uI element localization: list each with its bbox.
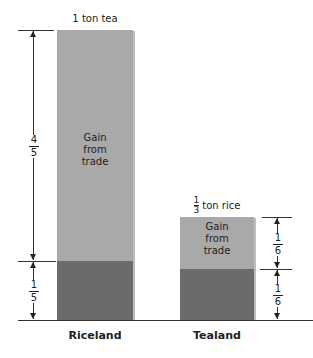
fraction-denominator: 6 xyxy=(273,245,283,256)
tealand-top-label: 1 3 ton rice xyxy=(180,196,254,215)
tealand-label: Tealand xyxy=(180,329,254,342)
arrow-up-icon xyxy=(274,270,280,276)
arrow-up-icon xyxy=(274,218,280,224)
tealand-top-fraction: 1 3 xyxy=(194,196,200,215)
riceland-base-fraction: 1 5 xyxy=(29,280,39,303)
riceland-top-tick xyxy=(18,30,54,31)
tealand-gain-label: Gain from trade xyxy=(180,221,254,257)
tealand-base-segment xyxy=(180,269,254,320)
arrow-down-icon xyxy=(274,313,280,319)
riceland-label: Riceland xyxy=(57,329,133,342)
fraction-denominator: 6 xyxy=(273,296,283,307)
riceland-gain-label: Gain from trade xyxy=(57,132,133,168)
tealand-gain-fraction: 1 6 xyxy=(273,233,283,256)
gain-label-line: Gain xyxy=(180,221,254,233)
fraction-denominator: 5 xyxy=(29,147,39,158)
arrow-down-icon xyxy=(30,313,36,319)
gain-label-line: trade xyxy=(57,156,133,168)
gain-label-line: from xyxy=(180,233,254,245)
riceland-base-segment xyxy=(57,261,133,320)
riceland-gain-fraction: 4 5 xyxy=(29,135,39,158)
tealand-top-label-text: ton rice xyxy=(202,200,240,211)
riceland-mid-tick xyxy=(18,261,56,262)
fraction-numerator: 1 xyxy=(29,280,39,292)
arrow-up-icon xyxy=(30,262,36,268)
fraction-numerator: 1 xyxy=(273,284,283,296)
riceland-top-label: 1 ton tea xyxy=(57,13,133,25)
fraction-denominator: 5 xyxy=(29,292,39,303)
arrow-up-icon xyxy=(30,31,36,37)
fraction-numerator: 4 xyxy=(29,135,39,147)
gain-label-line: Gain xyxy=(57,132,133,144)
arrow-down-icon xyxy=(30,254,36,260)
gain-label-line: trade xyxy=(180,245,254,257)
fraction-denominator: 3 xyxy=(194,205,200,215)
tealand-base-fraction: 1 6 xyxy=(273,284,283,307)
arrow-down-icon xyxy=(274,262,280,268)
gain-label-line: from xyxy=(57,144,133,156)
fraction-numerator: 1 xyxy=(273,233,283,245)
baseline xyxy=(18,320,313,321)
